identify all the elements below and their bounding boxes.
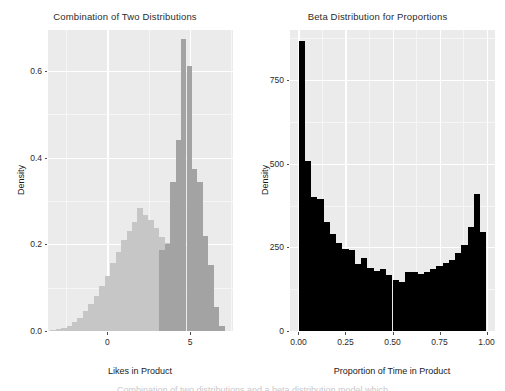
y-axis-tick-label: 250 [252, 242, 284, 252]
y-tick-mark [287, 80, 290, 81]
gridline-v-major [487, 30, 488, 331]
chart-title-right: Beta Distribution for Proportions [250, 11, 505, 22]
figure-caption: Combination of two distributions and a b… [0, 385, 505, 391]
y-tick-mark [45, 244, 48, 245]
histogram-bar [405, 272, 411, 331]
y-axis-tick-label: 0 [252, 326, 284, 336]
y-axis-tick-label: 0.0 [10, 326, 42, 336]
y-axis-title-right: Density [260, 165, 270, 195]
y-axis-tick-label: 0.4 [10, 153, 42, 163]
x-tick-mark [393, 332, 394, 335]
y-tick-mark [287, 247, 290, 248]
x-axis-tick-label: 0.00 [290, 337, 307, 347]
x-tick-mark [107, 332, 108, 335]
histogram-bars-left [48, 30, 233, 331]
gridline-h-major [48, 158, 233, 159]
histogram-bar [367, 268, 373, 331]
chart-title-left: Combination of Two Distributions [0, 11, 250, 22]
x-axis-title-left: Likes in Product [108, 366, 172, 376]
x-tick-mark [190, 332, 191, 335]
figure-container: Combination of Two Distributions 0.00.20… [0, 0, 505, 391]
histogram-bar [330, 234, 336, 331]
y-tick-mark [45, 158, 48, 159]
chart-panel-beta: Beta Distribution for Proportions 025050… [250, 0, 505, 391]
histogram-bar [386, 275, 392, 331]
x-tick-mark [345, 332, 346, 335]
histogram-bar [349, 250, 355, 331]
y-tick-mark [45, 331, 48, 332]
x-tick-mark [487, 332, 488, 335]
y-tick-mark [287, 164, 290, 165]
gridline-v-minor [231, 30, 232, 331]
histogram-bar [311, 197, 317, 331]
plot-area-left [48, 30, 233, 331]
x-axis-tick-label: 0.25 [337, 337, 354, 347]
histogram-bar [461, 245, 467, 331]
x-axis-tick-label: 0 [105, 337, 110, 347]
y-axis-title-left: Density [16, 165, 26, 195]
y-axis-tick-label: 750 [252, 75, 284, 85]
gridline-h-minor [48, 201, 233, 202]
plot-area-right [290, 30, 495, 331]
histogram-bar [424, 272, 430, 331]
gridline-h-minor [48, 114, 233, 115]
y-tick-mark [45, 71, 48, 72]
histogram-bar [443, 263, 449, 331]
x-tick-mark [298, 332, 299, 335]
x-axis-tick-label: 0.50 [384, 337, 401, 347]
x-axis-tick-label: 5 [188, 337, 193, 347]
x-axis-tick-label: 1.00 [478, 337, 495, 347]
chart-panel-combination: Combination of Two Distributions 0.00.20… [0, 0, 250, 391]
gridline-h-major [48, 71, 233, 72]
gridline-v-minor [66, 30, 67, 331]
x-axis-tick-label: 0.75 [431, 337, 448, 347]
y-axis-tick-label: 0.6 [10, 66, 42, 76]
histogram-bar [219, 326, 224, 331]
y-axis-tick-label: 0.2 [10, 239, 42, 249]
histogram-bar [480, 232, 486, 331]
x-tick-mark [440, 332, 441, 335]
y-tick-mark [287, 331, 290, 332]
x-axis-title-right: Proportion of Time in Product [334, 366, 451, 376]
